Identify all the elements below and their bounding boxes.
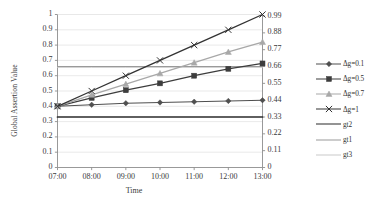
legend-item: Δg=0.5 [316,71,386,86]
legend-swatch-triangle-icon [316,88,341,100]
legend-item-label: Δg=0.1 [343,59,364,68]
legend-item-label: gt2 [343,120,352,129]
legend-item-label: gt3 [343,150,352,159]
legend-item-label: Δg=0.7 [343,89,364,98]
chart-legend: Δg=0.1Δg=0.5Δg=0.7Δg=1gt2gt1gt3 [316,56,386,162]
legend-item-label: Δg=0.5 [343,74,364,83]
legend-swatch-square-icon [316,73,341,85]
legend-swatch-diamond-icon [316,58,341,70]
legend-swatch-none-icon [316,149,341,161]
legend-item: gt1 [316,132,386,147]
chart-figure: Global Assertion Value Time 00.10.20.30.… [0,0,386,217]
legend-swatch-none-icon [316,134,341,146]
legend-swatch-none-icon [316,118,341,130]
legend-item: Δg=1 [316,102,386,117]
legend-item: gt2 [316,117,386,132]
legend-item: gt3 [316,147,386,162]
legend-item: Δg=0.7 [316,86,386,101]
legend-item: Δg=0.1 [316,56,386,71]
legend-item-label: Δg=1 [343,105,359,114]
legend-swatch-cross-icon [316,103,341,115]
legend-item-label: gt1 [343,135,352,144]
